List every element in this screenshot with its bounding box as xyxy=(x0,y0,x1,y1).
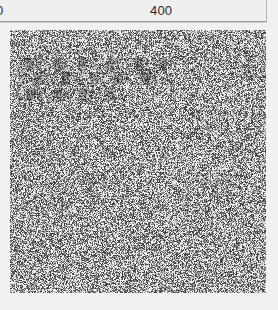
noise-image-panel[interactable]: ░▓▒░ ▓▒░▓ ▒░▓▒ ░▓▒░▓ ▒░▓▒░ ▓▒░ ▓▒░▓▒ ░▓▒… xyxy=(10,30,266,293)
ruler-tick-label-400: 400 xyxy=(150,2,172,19)
ruler-tick-label-0: 0 xyxy=(0,2,3,19)
horizontal-ruler[interactable]: 0 400 xyxy=(0,0,267,22)
page-surface: 0 400 ░▓▒░ ▓▒░▓ ▒░▓▒ ░▓▒░▓ ▒░▓▒░ ▓▒░ ▓▒░… xyxy=(0,0,278,310)
bottom-margin xyxy=(0,293,278,310)
noise-image-canvas xyxy=(10,30,266,293)
